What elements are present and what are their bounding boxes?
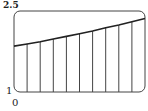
rectangle-lines (27, 22, 132, 92)
riemann-sum-plot (0, 0, 148, 111)
